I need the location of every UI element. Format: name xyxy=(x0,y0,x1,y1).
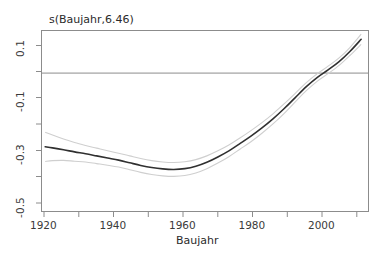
x-tick-label-1: 1940 xyxy=(100,219,127,231)
x-axis-title: Baujahr xyxy=(176,234,219,247)
plot-frame-border xyxy=(42,31,369,212)
x-tick-label-0: 1920 xyxy=(30,219,57,231)
y-tick-label-0: 0.1 xyxy=(14,40,26,57)
x-tick-label-4: 2000 xyxy=(308,219,335,231)
smooth-term-title: s(Baujahr,6.46) xyxy=(49,13,134,26)
smooth-estimate-line xyxy=(45,39,361,169)
gam-smooth-plot-figure: s(Baujahr,6.46) 0.1 -0.1 -0.3 -0.5 1920 … xyxy=(0,0,383,253)
x-axis-ticks xyxy=(44,212,357,218)
x-tick-label-3: 1980 xyxy=(239,219,266,231)
y-tick-label-1: -0.1 xyxy=(14,91,26,112)
plot-canvas xyxy=(0,0,383,253)
y-tick-label-3: -0.5 xyxy=(14,197,26,218)
y-tick-label-2: -0.3 xyxy=(14,144,26,165)
y-axis-ticks xyxy=(36,46,42,204)
upper-confidence-band-line xyxy=(45,34,361,162)
x-tick-label-2: 1960 xyxy=(169,219,196,231)
lower-confidence-band-line xyxy=(45,44,361,176)
